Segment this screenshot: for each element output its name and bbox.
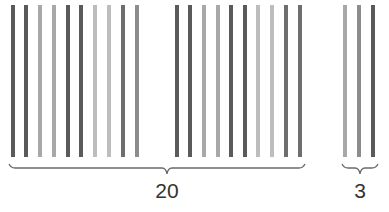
group-count-label-20: 20 — [155, 180, 178, 201]
brace-group-20 — [9, 164, 305, 174]
group-count-label-3: 3 — [354, 180, 366, 201]
brace-group-3 — [342, 164, 378, 174]
brace-layer — [0, 0, 389, 212]
